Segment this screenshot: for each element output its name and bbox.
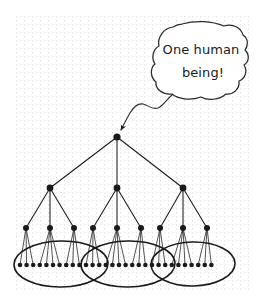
leaf-node [156,263,161,268]
leaf-node [90,263,95,268]
leaf-node [163,263,168,268]
leaf-node [123,263,128,268]
leaf-node [18,263,23,268]
level-3-node [47,225,53,231]
level-2-node [114,185,121,192]
leaf-node [64,263,69,268]
leaf-node [71,263,76,268]
level-3-node [180,225,186,231]
speech-bubble: One human being! [151,22,248,100]
level-2-node [47,185,54,192]
leaf-node [84,263,89,268]
level-3-node [138,225,144,231]
level-3-node [90,225,96,231]
leaf-node [143,263,148,268]
level-3-node [204,225,210,231]
level-2-node [180,185,187,192]
leaf-node [150,263,155,268]
leaf-node [104,263,109,268]
level-3-node [23,225,29,231]
figure-canvas: One human being! [0,0,268,298]
leaf-node [24,263,29,268]
leaf-node [31,263,36,268]
leaf-node [183,263,188,268]
leaf-node [189,263,194,268]
level-3-node [157,225,163,231]
bubble-line-2: being! [182,65,224,80]
leaf-node [77,263,82,268]
leaf-node [51,263,56,268]
leaf-node [170,263,175,268]
leaf-node [117,263,122,268]
level-3-node [71,225,77,231]
root-node [113,133,120,140]
leaf-node [130,263,135,268]
leaf-node [38,263,43,268]
leaf-node [97,263,102,268]
leaf-node [176,263,181,268]
level-3-node [114,225,120,231]
leaf-node [203,263,208,268]
leaf-node [196,263,201,268]
leaf-node [209,263,214,268]
speech-bubble-outline [151,22,248,100]
bubble-line-1: One human [163,42,240,57]
diagram-svg: One human being! [0,0,268,298]
leaf-node [57,263,62,268]
leaf-node [44,263,49,268]
leaf-node [110,263,115,268]
leaf-node [137,263,142,268]
